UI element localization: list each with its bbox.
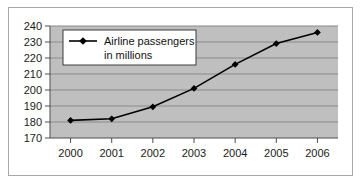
legend-label-line-2: in millions xyxy=(104,49,153,61)
chart-legend: Airline passengers in millions xyxy=(63,30,196,65)
y-tick-label: 230 xyxy=(24,36,42,48)
x-tick-label: 2002 xyxy=(141,147,165,159)
x-tick-label: 2001 xyxy=(99,147,123,159)
y-tick-label: 220 xyxy=(24,52,42,64)
line-chart: 170180190200210220230240 200020012002200… xyxy=(9,8,352,175)
y-tick-label: 170 xyxy=(24,132,42,144)
chart-frame: 170180190200210220230240 200020012002200… xyxy=(8,7,353,176)
y-axis-ticks: 170180190200210220230240 xyxy=(24,20,50,144)
x-tick-label: 2003 xyxy=(182,147,206,159)
y-tick-label: 210 xyxy=(24,68,42,80)
y-tick-label: 240 xyxy=(24,20,42,32)
x-tick-label: 2000 xyxy=(58,147,82,159)
x-axis-ticks: 2000200120022003200420052006 xyxy=(58,138,329,159)
x-tick-label: 2005 xyxy=(264,147,288,159)
x-tick-label: 2004 xyxy=(223,147,247,159)
y-tick-label: 190 xyxy=(24,100,42,112)
x-tick-label: 2006 xyxy=(305,147,329,159)
legend-label-line-1: Airline passengers xyxy=(104,35,195,47)
y-tick-label: 180 xyxy=(24,116,42,128)
y-tick-label: 200 xyxy=(24,84,42,96)
